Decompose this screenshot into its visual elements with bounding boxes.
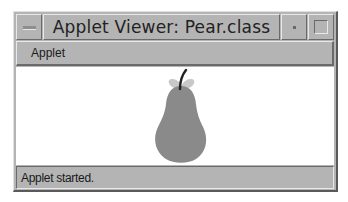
applet-viewer-window: Applet Viewer: Pear.class Applet Applet …: [13, 11, 338, 192]
title-bar[interactable]: Applet Viewer: Pear.class: [16, 14, 334, 40]
window-menu-button[interactable]: [16, 14, 42, 40]
status-bar: Applet started.: [16, 166, 334, 189]
pear-body: [155, 86, 206, 163]
menu-applet[interactable]: Applet: [31, 46, 65, 60]
maximize-icon: [314, 20, 328, 34]
applet-canvas[interactable]: [16, 67, 334, 165]
minimize-button[interactable]: [281, 14, 307, 40]
maximize-button[interactable]: [308, 14, 334, 40]
window-menu-icon: [23, 26, 36, 30]
window-title[interactable]: Applet Viewer: Pear.class: [43, 14, 280, 40]
menu-bar: Applet: [16, 41, 334, 66]
minimize-icon: [293, 26, 296, 29]
status-text: Applet started.: [21, 171, 94, 185]
pear-drawing: [16, 67, 337, 165]
